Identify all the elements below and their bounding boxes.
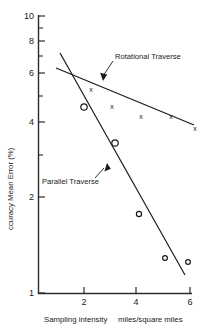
x-tick-label-2: 2 <box>81 297 86 307</box>
annotation-label-rotational: Rotational Traverse <box>115 52 181 61</box>
marker-x: x <box>193 125 197 132</box>
chart-figure: 10 8 6 4 2 1 2 4 6 x x x x x <box>0 0 207 328</box>
marker-circle <box>163 256 168 261</box>
marker-x: x <box>89 86 93 93</box>
marker-circle <box>186 260 191 265</box>
y-tick-label-4: 4 <box>29 117 34 127</box>
x-axis-title-right: miles/square miles <box>118 315 183 324</box>
series-rotational-traverse-markers: x x x x x <box>89 86 197 132</box>
marker-circle <box>81 104 87 110</box>
annotation-parallel: Parallel Traverse <box>42 163 111 186</box>
marker-x: x <box>139 113 143 120</box>
chart-canvas: 10 8 6 4 2 1 2 4 6 x x x x x <box>0 0 207 328</box>
marker-x: x <box>169 113 173 120</box>
annotation-arrowhead-parallel <box>104 163 110 171</box>
annotation-label-parallel: Parallel Traverse <box>42 177 99 186</box>
marker-circle <box>112 140 118 146</box>
y-tick-label-6: 6 <box>29 68 34 78</box>
annotation-rotational: Rotational Traverse <box>100 52 181 81</box>
y-tick-label-10: 10 <box>24 11 34 21</box>
x-tick-label-4: 4 <box>133 297 138 307</box>
marker-x: x <box>110 103 114 110</box>
annotation-leader-rotational <box>103 61 113 76</box>
annotation-arrowhead-rotational <box>100 73 107 81</box>
trend-line-rotational <box>56 68 194 125</box>
x-tick-label-6: 6 <box>187 297 192 307</box>
marker-circle <box>136 211 141 216</box>
y-tick-label-1: 1 <box>29 288 34 298</box>
y-tick-label-8: 8 <box>29 36 34 46</box>
y-axis-title: ccuracy Mean Error (%) <box>6 147 15 230</box>
y-tick-label-2: 2 <box>29 192 34 202</box>
annotation-leader-parallel <box>95 168 104 178</box>
x-axis-title-left: Sampling intensity <box>44 315 107 324</box>
trend-lines-group <box>56 53 194 275</box>
trend-line-parallel <box>60 53 185 275</box>
